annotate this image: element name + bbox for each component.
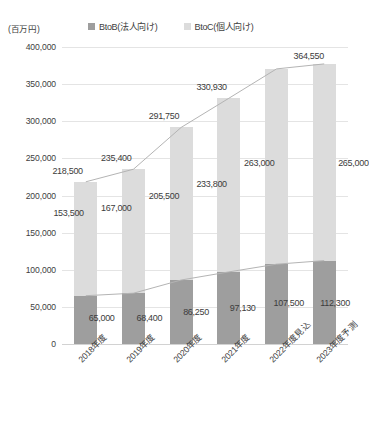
legend-item-btoc[interactable]: BtoC(個人向け) xyxy=(184,20,254,33)
total-value-label: 235,400 xyxy=(101,153,131,163)
y-axis-tick-label: 400,000 xyxy=(0,42,56,52)
gridline xyxy=(62,270,348,271)
y-axis-tick-label: 100,000 xyxy=(0,265,56,275)
btob-value-label: 97,130 xyxy=(230,303,256,313)
y-axis-tick-label: 300,000 xyxy=(0,116,56,126)
axis-baseline xyxy=(62,344,348,345)
bar-segment-btoc xyxy=(313,64,336,261)
btob-value-label: 68,400 xyxy=(137,313,163,323)
y-axis-tick-label: 150,000 xyxy=(0,228,56,238)
y-axis-tick-label: 350,000 xyxy=(0,79,56,89)
y-axis-tick-label: 200,000 xyxy=(0,191,56,201)
bar-segment-btoc xyxy=(122,169,145,293)
bar-segment-btoc xyxy=(74,182,97,296)
legend-swatch-btoc xyxy=(184,23,191,30)
total-value-label: 330,930 xyxy=(196,82,226,92)
gridline xyxy=(62,121,348,122)
btoc-value-label: 153,500 xyxy=(53,208,83,218)
btoc-value-label: 263,000 xyxy=(244,158,274,168)
y-axis-tick-label: 250,000 xyxy=(0,153,56,163)
legend-swatch-btob xyxy=(88,23,95,30)
btob-value-label: 112,300 xyxy=(320,298,350,308)
bar-segment-btoc xyxy=(170,127,193,280)
y-axis-tick-label: 50,000 xyxy=(0,302,56,312)
legend-label-btob: BtoB(法人向け) xyxy=(99,20,158,33)
chart-legend: BtoB(法人向け) BtoC(個人向け) xyxy=(88,20,254,33)
total-value-label: 291,750 xyxy=(149,111,179,121)
btob-value-label: 86,250 xyxy=(183,307,209,317)
gridline xyxy=(62,196,348,197)
btoc-value-label: 233,800 xyxy=(196,179,226,189)
btoc-value-label: 265,000 xyxy=(338,158,368,168)
y-axis-unit-label: (百万円) xyxy=(8,22,40,34)
btob-value-label: 107,500 xyxy=(274,298,304,308)
legend-item-btob[interactable]: BtoB(法人向け) xyxy=(88,20,158,33)
y-axis-tick-label: 0 xyxy=(0,339,56,349)
total-value-label: 218,500 xyxy=(52,166,82,176)
legend-label-btoc: BtoC(個人向け) xyxy=(195,20,254,33)
gridline xyxy=(62,233,348,234)
gridline xyxy=(62,47,348,48)
btoc-value-label: 205,500 xyxy=(149,191,179,201)
btob-value-label: 65,000 xyxy=(89,313,115,323)
btoc-value-label: 167,000 xyxy=(101,203,131,213)
total-value-label: 364,550 xyxy=(294,51,324,61)
